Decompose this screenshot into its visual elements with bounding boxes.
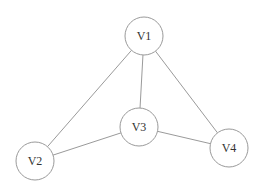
node-v3: V3 (120, 108, 158, 146)
node-v2: V2 (16, 142, 54, 180)
edge-v1-v2 (47, 50, 131, 146)
edge-v1-v4 (155, 51, 217, 133)
graph-diagram: V1V2V3V4 (0, 0, 263, 194)
edge-v1-v3 (140, 55, 143, 108)
node-label: V2 (28, 154, 43, 168)
nodes-group: V1V2V3V4 (16, 17, 248, 180)
edge-v2-v3 (53, 133, 121, 155)
edge-v3-v4 (158, 131, 211, 143)
node-label: V1 (137, 29, 152, 43)
node-v1: V1 (125, 17, 163, 55)
node-label: V4 (222, 141, 237, 155)
node-v4: V4 (210, 129, 248, 167)
node-label: V3 (132, 120, 147, 134)
graph-svg: V1V2V3V4 (0, 0, 263, 194)
